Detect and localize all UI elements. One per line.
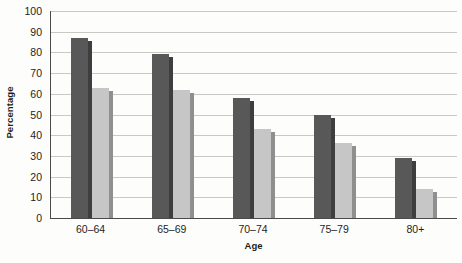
bar-top-edge	[169, 54, 173, 57]
bar-series-container	[51, 11, 457, 218]
bar-side-shadow	[433, 192, 437, 218]
bar-top-edge	[190, 90, 194, 93]
bar[interactable]	[233, 98, 254, 218]
x-axis-line	[50, 218, 457, 219]
bar-side-shadow	[352, 146, 356, 218]
bar[interactable]	[254, 129, 275, 218]
y-axis-tick-label: 80	[30, 46, 42, 58]
y-axis-title-text: Percentage	[4, 86, 15, 138]
bar-side-shadow	[271, 132, 275, 218]
y-axis-tick-label: 70	[30, 67, 42, 79]
bar-group	[152, 11, 194, 218]
y-axis-tick-label: 40	[30, 129, 42, 141]
bar[interactable]	[173, 90, 194, 218]
bar-face	[254, 129, 271, 218]
bar-top-edge	[352, 143, 356, 146]
bar-face	[233, 98, 250, 218]
bar-top-edge	[412, 158, 416, 161]
x-axis-title: Age	[50, 240, 457, 251]
y-axis-tick-label: 0	[36, 212, 42, 224]
y-axis-tick-label: 100	[24, 5, 42, 17]
bar-top-edge	[88, 38, 92, 41]
x-axis-tick-label: 80+	[406, 223, 424, 235]
x-axis-tick-label: 60–64	[76, 223, 105, 235]
x-axis-tick-labels: 60–6465–6970–7475–7980+	[50, 221, 457, 239]
bar-top-edge	[109, 88, 113, 91]
x-axis-tick-label: 75–79	[320, 223, 349, 235]
y-axis-tick-label: 30	[30, 150, 42, 162]
bar-chart-figure: Percentage 0102030405060708090100 60–646…	[0, 0, 462, 263]
bar-face	[335, 143, 352, 218]
bar-face	[92, 88, 109, 218]
bar-group	[395, 11, 437, 218]
bar-face	[314, 115, 331, 219]
bar-group	[71, 11, 113, 218]
bar[interactable]	[314, 115, 335, 219]
bar[interactable]	[92, 88, 113, 218]
bar-side-shadow	[190, 93, 194, 218]
bar-top-edge	[433, 189, 437, 192]
y-axis-tick-label: 50	[30, 109, 42, 121]
bar-top-edge	[331, 115, 335, 118]
bar[interactable]	[395, 158, 416, 218]
bar[interactable]	[335, 143, 356, 218]
y-axis-tick-label: 90	[30, 26, 42, 38]
bar-group	[314, 11, 356, 218]
y-axis-tick-label: 10	[30, 191, 42, 203]
bar-face	[152, 54, 169, 218]
bar-top-edge	[271, 129, 275, 132]
bar-face	[416, 189, 433, 218]
bar-face	[71, 38, 88, 218]
y-axis-tick-label: 20	[30, 171, 42, 183]
bar-face	[395, 158, 412, 218]
x-axis-tick-label: 65–69	[157, 223, 186, 235]
bar[interactable]	[416, 189, 437, 218]
plot-area	[50, 11, 457, 218]
bar-side-shadow	[109, 91, 113, 218]
bar-group	[233, 11, 275, 218]
bar[interactable]	[71, 38, 92, 218]
y-axis-tick-label: 60	[30, 88, 42, 100]
x-axis-tick-label: 70–74	[238, 223, 267, 235]
y-axis-tick-labels: 0102030405060708090100	[16, 0, 46, 225]
bar-face	[173, 90, 190, 218]
bar-top-edge	[250, 98, 254, 101]
bar[interactable]	[152, 54, 173, 218]
